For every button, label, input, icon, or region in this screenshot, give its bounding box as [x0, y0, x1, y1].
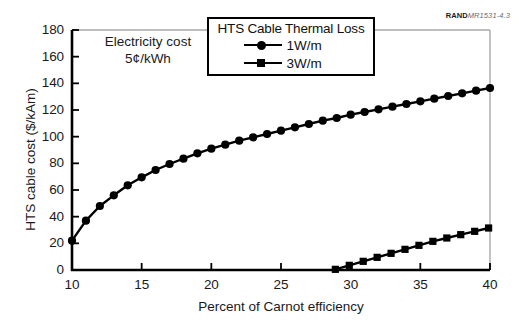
data-point [110, 191, 118, 199]
y-tick-label: 100 [30, 129, 64, 144]
data-point [444, 92, 452, 100]
data-point [415, 242, 422, 249]
data-point [387, 250, 394, 257]
y-tick-label: 60 [30, 182, 64, 197]
data-point [333, 114, 341, 122]
electricity-cost-annotation: Electricity cost 5¢/kWh [86, 33, 210, 67]
data-point [402, 100, 410, 108]
annotation-line-2: 5¢/kWh [86, 50, 210, 67]
legend-item-3wm: 3W/m [209, 54, 373, 72]
y-tick-label: 160 [30, 49, 64, 64]
x-tick-label: 35 [400, 277, 440, 292]
y-tick-label: 0 [30, 262, 64, 277]
data-point [249, 133, 257, 141]
data-point [221, 141, 229, 149]
data-point [277, 127, 285, 135]
x-tick-label: 40 [470, 277, 510, 292]
data-point [361, 108, 369, 116]
data-point [429, 238, 436, 245]
data-point [471, 228, 478, 235]
legend-label-1wm: 1W/m [287, 38, 339, 53]
y-tick-label: 120 [30, 102, 64, 117]
data-point [430, 95, 438, 103]
data-point [472, 87, 480, 95]
x-tick-label: 20 [191, 277, 231, 292]
data-point [347, 111, 355, 119]
data-point [457, 231, 464, 238]
data-point [179, 155, 187, 163]
x-tick-label: 30 [331, 277, 371, 292]
data-point [458, 89, 466, 97]
chart-figure: RANDMR1531-4.3 Electricity cost 5¢/kWh H… [0, 0, 519, 325]
x-tick-label: 10 [52, 277, 92, 292]
series-line-1Wm [72, 88, 490, 241]
circle-marker-icon [244, 38, 282, 52]
data-point [235, 137, 243, 145]
data-point [346, 262, 353, 269]
square-marker-icon [244, 56, 282, 70]
y-tick-label: 20 [30, 235, 64, 250]
data-point [388, 103, 396, 111]
rand-document-id: RANDMR1531-4.3 [446, 11, 510, 20]
data-point [193, 149, 201, 157]
y-tick-label: 80 [30, 155, 64, 170]
x-tick-label: 15 [122, 277, 162, 292]
y-tick-label: 40 [30, 209, 64, 224]
rand-logo-text: RAND [446, 11, 468, 20]
legend-item-1wm: 1W/m [209, 36, 373, 54]
data-point [416, 97, 424, 105]
legend-label-3wm: 3W/m [287, 56, 339, 71]
rand-report-number: MR1531-4.3 [468, 11, 510, 20]
data-point [319, 117, 327, 125]
data-point [486, 84, 494, 92]
data-point [82, 217, 90, 225]
series-line-3Wm [335, 228, 488, 269]
data-point [124, 181, 132, 189]
data-point [305, 120, 313, 128]
x-axis-title: Percent of Carnot efficiency [72, 299, 490, 314]
data-point [374, 254, 381, 261]
y-tick-label: 140 [30, 75, 64, 90]
data-point [360, 258, 367, 265]
data-point [152, 166, 160, 174]
data-point [68, 237, 76, 245]
data-point [291, 123, 299, 131]
data-point [401, 246, 408, 253]
data-point [165, 160, 173, 168]
data-point [443, 234, 450, 241]
data-point [332, 266, 339, 273]
data-point [96, 202, 104, 210]
data-point [485, 224, 492, 231]
data-point [138, 173, 146, 181]
chart-legend: HTS Cable Thermal Loss 1W/m 3W/m [207, 17, 375, 76]
x-tick-label: 25 [261, 277, 301, 292]
y-tick-label: 180 [30, 22, 64, 37]
data-point [207, 145, 215, 153]
legend-title: HTS Cable Thermal Loss [209, 21, 373, 36]
data-point [374, 105, 382, 113]
data-point [263, 130, 271, 138]
annotation-line-1: Electricity cost [86, 33, 210, 50]
